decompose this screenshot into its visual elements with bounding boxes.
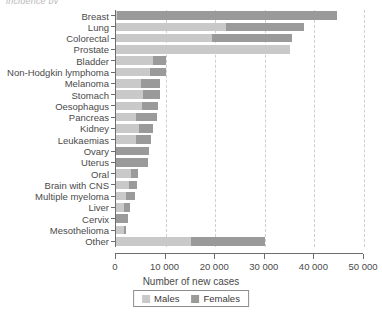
bar-segment-males [116, 192, 126, 201]
bar-segment-females [136, 113, 157, 122]
bar-row: Uterus [116, 157, 364, 168]
bar-segment-females [116, 147, 149, 156]
stacked-bar [116, 214, 128, 223]
stacked-bar [116, 11, 337, 20]
x-tick [214, 254, 215, 259]
x-tick [165, 254, 166, 259]
category-label: Pancreas [69, 112, 109, 123]
legend-label: Males [154, 293, 179, 304]
bar-row: Melanoma [116, 78, 364, 89]
category-label: Leukaemias [58, 134, 109, 145]
bar-row: Kidney [116, 123, 364, 134]
category-label: Kidney [80, 123, 109, 134]
bar-segment-females [116, 158, 148, 167]
bar-row: Non-Hodgkin lymphoma [116, 66, 364, 77]
bar-segment-females [150, 68, 166, 77]
bar-segment-males [116, 68, 150, 77]
bar-segment-females [191, 237, 265, 246]
bar-segment-females [124, 203, 129, 212]
x-tick-label: 10 000 [150, 261, 179, 272]
x-tick-label: 50 000 [348, 261, 377, 272]
bar-segment-males [116, 226, 124, 235]
bar-segment-females [136, 135, 151, 144]
bar-segment-females [117, 11, 337, 20]
stacked-bar [116, 68, 166, 77]
bar-row: Pancreas [116, 112, 364, 123]
bar-segment-males [116, 113, 136, 122]
category-label: Melanoma [65, 78, 109, 89]
bar-row: Liver [116, 202, 364, 213]
stacked-bar [116, 23, 304, 32]
legend-item: Males [142, 293, 179, 304]
category-label: Uterus [81, 157, 109, 168]
bar-row: Cervix [116, 213, 364, 224]
legend-label: Females [203, 293, 239, 304]
bar-segment-males [116, 124, 139, 133]
bar-row: Prostate [116, 44, 364, 55]
bar-segment-males [116, 34, 212, 43]
bar-row: Brain with CNS [116, 179, 364, 190]
bar-row: Oral [116, 168, 364, 179]
bar-row: Leukaemias [116, 134, 364, 145]
bar-segment-males [116, 169, 131, 178]
x-tick-label: 20 000 [200, 261, 229, 272]
bar-segment-males [116, 181, 129, 190]
bar-segment-females [212, 34, 291, 43]
stacked-bar [116, 203, 130, 212]
bar-segment-males [116, 203, 124, 212]
x-tick [264, 254, 265, 259]
stacked-bar [116, 34, 292, 43]
stacked-bar [116, 158, 148, 167]
stacked-bar [116, 147, 149, 156]
x-tick-label: 30 000 [249, 261, 278, 272]
category-label: Other [85, 236, 109, 247]
bar-segment-males [116, 102, 142, 111]
bar-segment-males [116, 237, 191, 246]
bar-segment-females [143, 90, 160, 99]
gridline [364, 10, 365, 247]
x-tick [363, 254, 364, 259]
category-label: Prostate [74, 44, 109, 55]
bar-segment-females [139, 124, 153, 133]
category-label: Stomach [72, 89, 110, 100]
chart-legend: MalesFemales [133, 290, 249, 307]
category-label: Ovary [84, 146, 109, 157]
bar-chart: BreastLungColorectalProstateBladderNon-H… [0, 8, 382, 256]
category-label: Oesophagus [55, 100, 109, 111]
bar-segment-males [116, 45, 290, 54]
stacked-bar [116, 102, 158, 111]
stacked-bar [116, 226, 126, 235]
stacked-bar [116, 237, 265, 246]
x-tick-label: 40 000 [299, 261, 328, 272]
bar-row: Stomach [116, 89, 364, 100]
stacked-bar [116, 135, 151, 144]
category-label: Non-Hodgkin lymphoma [7, 67, 109, 78]
category-label: Breast [82, 10, 109, 21]
bar-segment-females [226, 23, 304, 32]
x-tick-label: 0 [112, 261, 117, 272]
legend-swatch [142, 295, 150, 303]
stacked-bar [116, 169, 138, 178]
bar-segment-males [116, 79, 141, 88]
stacked-bar [116, 56, 166, 65]
bar-segment-females [153, 56, 165, 65]
category-label: Colorectal [66, 33, 109, 44]
bar-segment-females [131, 169, 138, 178]
stacked-bar [116, 45, 290, 54]
bar-row: Oesophagus [116, 100, 364, 111]
plot-area: BreastLungColorectalProstateBladderNon-H… [115, 10, 364, 247]
legend-item: Females [191, 293, 239, 304]
x-axis: 010 00020 00030 00040 00050 000 [115, 253, 363, 254]
bar-segment-females [126, 192, 134, 201]
category-label: Cervix [82, 213, 109, 224]
bar-segment-males [116, 90, 143, 99]
bar-row: Multiple myeloma [116, 191, 364, 202]
bar-row: Breast [116, 10, 364, 21]
category-label: Bladder [76, 55, 109, 66]
category-label: Liver [88, 202, 109, 213]
legend-swatch [191, 295, 199, 303]
bar-segment-males [116, 135, 136, 144]
stacked-bar [116, 90, 160, 99]
bar-row: Lung [116, 21, 364, 32]
stacked-bar [116, 192, 135, 201]
